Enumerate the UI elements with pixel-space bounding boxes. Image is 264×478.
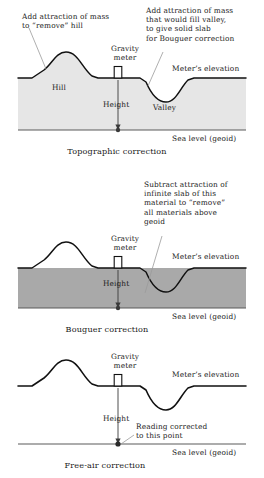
leader-line-hill (29, 28, 46, 69)
corrected-point-dot (115, 441, 120, 446)
label-sea-level: Sea level (geoid) (172, 312, 236, 321)
gravity-corrections-figure: Add attraction of mass to “remove” hill … (0, 0, 264, 478)
caption-bouguer-correction: Bouguer correction (22, 324, 192, 334)
label-meters-elevation: Meter’s elevation (172, 64, 239, 73)
caption-topographic-correction: Topographic correction (32, 146, 202, 156)
label-gravity-meter: Gravity meter (102, 352, 148, 370)
infinite-slab-fill (18, 268, 246, 308)
panel-topographic-correction: Add attraction of mass to “remove” hill … (0, 0, 264, 160)
leader-line-reading (121, 435, 134, 444)
label-sea-level: Sea level (geoid) (172, 448, 236, 457)
leader-line-valley (148, 52, 163, 86)
label-gravity-meter: Gravity meter (102, 44, 148, 62)
gravity-meter-box (114, 375, 122, 387)
label-valley: Valley (153, 103, 176, 112)
gravity-meter-box (114, 67, 122, 79)
panel-free-air-correction: Gravity meter Height Meter’s elevation R… (0, 340, 264, 478)
label-gravity-meter: Gravity meter (102, 234, 148, 252)
annotation-reading-corrected: Reading corrected to this point (136, 422, 207, 440)
annotation-remove-hill: Add attraction of mass to “remove” hill (22, 12, 109, 30)
label-meters-elevation: Meter’s elevation (172, 252, 239, 261)
caption-free-air-correction: Free-air correction (20, 460, 190, 470)
panel-bouguer-correction: Subtract attraction of infinite slab of … (0, 160, 264, 340)
label-height: Height (103, 100, 129, 109)
height-base-dot (116, 128, 120, 132)
height-base-dot (116, 306, 120, 310)
gravity-meter-box (114, 257, 122, 269)
label-sea-level: Sea level (geoid) (172, 134, 236, 143)
label-hill: Hill (52, 83, 66, 92)
label-meters-elevation: Meter’s elevation (172, 370, 239, 379)
label-height: Height (103, 414, 129, 423)
annotation-fill-valley: Add attraction of mass that would fill v… (146, 6, 234, 43)
label-height: Height (103, 279, 129, 288)
annotation-subtract-slab: Subtract attraction of infinite slab of … (144, 180, 228, 226)
